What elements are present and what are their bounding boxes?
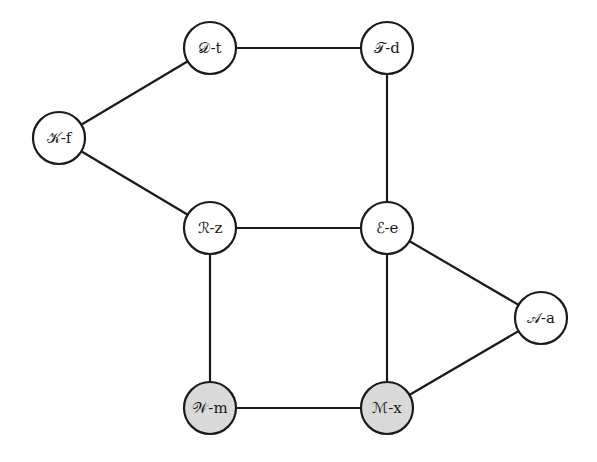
node-label-k-f: 𝒦-f <box>47 129 73 147</box>
node-label-d-t: 𝒟-t <box>198 39 221 57</box>
node-label-e-e: ℰ-e <box>376 219 399 237</box>
node-w-m: 𝒲-m <box>184 382 236 434</box>
node-d-t: 𝒟-t <box>184 22 236 74</box>
node-label-r-z: ℛ-z <box>198 219 223 237</box>
node-label-m-x: ℳ-x <box>372 399 402 417</box>
node-r-z: ℛ-z <box>184 202 236 254</box>
node-k-f: 𝒦-f <box>33 112 85 164</box>
node-label-a-a: 𝒜-a <box>527 309 555 327</box>
node-label-t-d: 𝒯-d <box>374 39 400 57</box>
node-a-a: 𝒜-a <box>515 292 567 344</box>
node-label-w-m: 𝒲-m <box>192 399 227 417</box>
graph-diagram: 𝒟-t 𝒯-d 𝒦-f ℛ-z ℰ-e 𝒜-a 𝒲-m ℳ-x <box>0 0 597 462</box>
node-t-d: 𝒯-d <box>361 22 413 74</box>
node-e-e: ℰ-e <box>361 202 413 254</box>
node-m-x: ℳ-x <box>361 382 413 434</box>
edges-layer <box>59 48 541 408</box>
